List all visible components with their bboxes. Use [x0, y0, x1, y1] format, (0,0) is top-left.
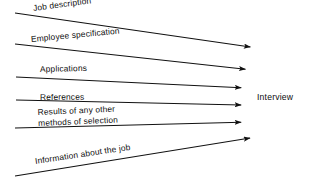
diagram-canvas: Job description Employee specification A… [0, 0, 311, 193]
label-references: References [40, 92, 84, 103]
label-applications: Applications [40, 63, 87, 74]
label-results-other-methods: Results of any other methods of selectio… [38, 104, 119, 129]
arrow-applications [16, 77, 241, 88]
label-interview: Interview [257, 92, 293, 102]
